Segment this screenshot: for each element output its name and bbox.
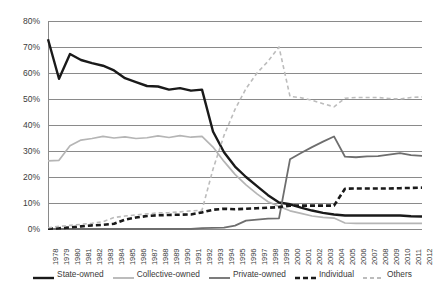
x-axis-tick-label: 2001 xyxy=(304,249,313,266)
x-axis-tick-label: 2004 xyxy=(337,249,346,266)
x-axis-tick-label: 1995 xyxy=(238,249,247,266)
x-axis-tick-label: 1985 xyxy=(128,249,137,266)
y-axis-tick-label: 70% xyxy=(0,43,40,52)
x-axis-tick-label: 2011 xyxy=(414,249,423,265)
y-axis-tick-label: 50% xyxy=(0,95,40,104)
y-axis-tick-label: 30% xyxy=(0,147,40,156)
y-axis-tick-label: 0% xyxy=(0,225,40,234)
y-axis-tick-label: 20% xyxy=(0,173,40,182)
x-axis-tick-label: 1993 xyxy=(216,249,225,266)
x-axis-tick-label: 1994 xyxy=(227,249,236,266)
x-axis-tick-label: 2010 xyxy=(403,249,412,266)
legend-item-individual[interactable]: Individual xyxy=(295,269,354,279)
legend-label: Others xyxy=(387,269,412,279)
x-axis-tick-label: 1980 xyxy=(73,249,82,266)
y-axis-tick-label: 40% xyxy=(0,121,40,130)
x-axis-tick-label: 2002 xyxy=(315,249,324,266)
series-lines xyxy=(48,21,422,229)
x-axis-tick-label: 1992 xyxy=(205,249,214,266)
x-axis-tick-label: 1983 xyxy=(106,249,115,266)
x-axis-tick-label: 2007 xyxy=(370,249,379,266)
x-axis-tick-label: 1981 xyxy=(84,249,93,266)
x-axis-tick-label: 2003 xyxy=(326,249,335,266)
legend-item-collective-owned[interactable]: Collective-owned xyxy=(113,269,200,279)
x-axis-tick-label: 2009 xyxy=(392,249,401,266)
legend-item-private-owned[interactable]: Private-owned xyxy=(209,269,286,279)
x-axis-tick-label: 1999 xyxy=(282,249,291,266)
x-axis-tick-label: 1989 xyxy=(172,249,181,266)
x-axis-tick-label: 1998 xyxy=(271,249,280,266)
line-chart: 0%10%20%30%40%50%60%70%80% 1978197919801… xyxy=(0,0,445,295)
x-axis-tick-label: 1997 xyxy=(260,249,269,266)
x-axis-tick-label: 2005 xyxy=(348,249,357,266)
x-axis-tick-label: 2012 xyxy=(425,249,434,266)
x-axis-tick-label: 1982 xyxy=(95,249,104,266)
y-axis-tick-label: 60% xyxy=(0,69,40,78)
x-axis-tick-label: 2000 xyxy=(293,249,302,266)
x-axis-tick-label: 1979 xyxy=(62,249,71,266)
x-axis-tick-label: 1984 xyxy=(117,249,126,266)
x-axis-tick-label: 1978 xyxy=(51,249,60,266)
x-axis-labels: 1978197919801981198219831984198519861987… xyxy=(48,231,422,267)
x-axis-tick-label: 2008 xyxy=(381,249,390,266)
x-axis-tick-label: 1990 xyxy=(183,249,192,266)
legend-item-state-owned[interactable]: State-owned xyxy=(33,269,104,279)
legend-label: State-owned xyxy=(57,269,104,279)
x-axis-tick-label: 1987 xyxy=(150,249,159,266)
x-axis-tick-label: 1991 xyxy=(194,249,203,266)
series-line-state-owned xyxy=(48,39,422,216)
x-axis-tick-label: 2006 xyxy=(359,249,368,266)
x-axis-tick-label: 1996 xyxy=(249,249,258,266)
legend-item-others[interactable]: Others xyxy=(363,269,412,279)
legend-label: Collective-owned xyxy=(137,269,200,279)
x-axis-tick-label: 1986 xyxy=(139,249,148,266)
legend-label: Individual xyxy=(319,269,354,279)
legend-label: Private-owned xyxy=(233,269,286,279)
y-axis-tick-label: 10% xyxy=(0,199,40,208)
x-axis-tick-label: 1988 xyxy=(161,249,170,266)
y-axis-tick-label: 80% xyxy=(0,17,40,26)
plot-area xyxy=(48,21,422,229)
chart-legend: State-ownedCollective-ownedPrivate-owned… xyxy=(0,269,445,279)
